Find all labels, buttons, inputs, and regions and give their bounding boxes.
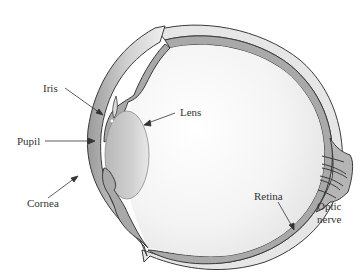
label-cornea: Cornea <box>27 197 59 209</box>
label-optic-nerve-line1: Optic <box>317 200 342 212</box>
label-pupil: Pupil <box>17 135 40 147</box>
eye-diagram: Iris Pupil Cornea Lens Retina Optic nerv… <box>0 0 363 277</box>
label-iris: Iris <box>43 82 58 94</box>
label-lens: Lens <box>180 106 201 118</box>
label-retina: Retina <box>254 190 283 202</box>
label-optic-nerve-line2: nerve <box>317 213 342 225</box>
